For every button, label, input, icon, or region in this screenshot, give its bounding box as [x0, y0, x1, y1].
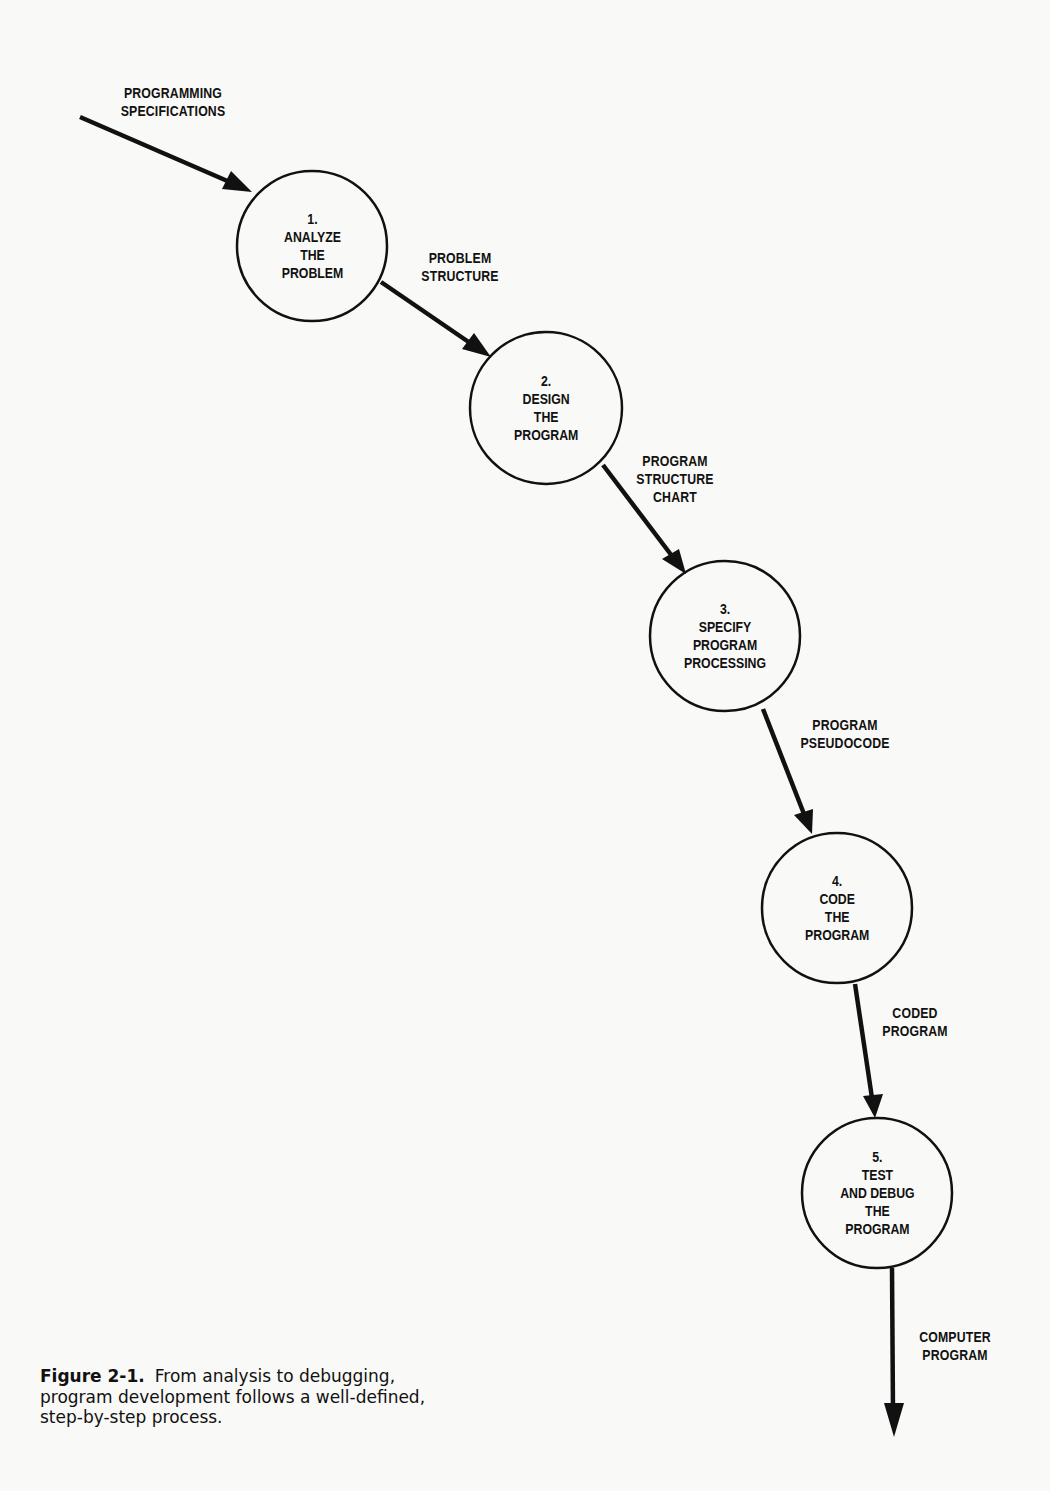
- step-line: AND DEBUG: [840, 1184, 914, 1202]
- step-line: PROGRAM: [805, 926, 869, 944]
- caption-line: step-by-step process.: [40, 1407, 223, 1427]
- flow-label-line: PROGRAM: [800, 716, 890, 734]
- step-line: CODE: [805, 890, 869, 908]
- step-line: THE: [840, 1202, 914, 1220]
- input-label-programming-specifications: PROGRAMMING SPECIFICATIONS: [112, 84, 235, 120]
- arrow-step-5-to-output: [884, 1268, 904, 1437]
- step-line: PROCESSING: [684, 654, 766, 672]
- step-number: 3.: [684, 600, 766, 618]
- flow-label-program-structure-chart: PROGRAM STRUCTURE CHART: [626, 452, 724, 506]
- step-number: 2.: [514, 372, 578, 390]
- step-5-test-and-debug-the-program: 5. TEST AND DEBUG THE PROGRAM: [802, 1118, 952, 1268]
- step-number: 4.: [805, 872, 869, 890]
- step-line: PROBLEM: [281, 264, 343, 282]
- step-line: SPECIFY: [684, 618, 766, 636]
- flow-label-line: PROGRAM: [878, 1022, 952, 1040]
- caption-line: program development follows a well-defin…: [40, 1387, 425, 1407]
- step-line: THE: [805, 908, 869, 926]
- flow-label-line: PSEUDOCODE: [800, 734, 890, 752]
- flow-label-line: CHART: [626, 488, 724, 506]
- input-label-line: PROGRAMMING: [112, 84, 235, 102]
- flow-label-program-pseudocode: PROGRAM PSEUDOCODE: [800, 716, 890, 752]
- figure-caption: Figure 2-1.From analysis to debugging, p…: [40, 1366, 560, 1428]
- flow-label-line: PROGRAM: [626, 452, 724, 470]
- flow-label-line: COMPUTER: [914, 1328, 996, 1346]
- flow-label-line: PROGRAM: [914, 1346, 996, 1364]
- step-line: THE: [281, 246, 343, 264]
- step-4-code-the-program: 4. CODE THE PROGRAM: [762, 833, 912, 983]
- flow-label-coded-program: CODED PROGRAM: [878, 1004, 952, 1040]
- step-line: PROGRAM: [840, 1220, 914, 1238]
- step-line: ANALYZE: [281, 228, 343, 246]
- figure-number: Figure 2-1.: [40, 1366, 145, 1386]
- step-2-design-the-program: 2. DESIGN THE PROGRAM: [471, 333, 621, 483]
- step-line: PROGRAM: [514, 426, 578, 444]
- step-3-specify-program-processing: 3. SPECIFY PROGRAM PROCESSING: [650, 561, 800, 711]
- step-line: DESIGN: [514, 390, 578, 408]
- flow-label-line: STRUCTURE: [626, 470, 724, 488]
- step-1-analyze-the-problem: 1. ANALYZE THE PROBLEM: [237, 171, 387, 321]
- flow-label-line: CODED: [878, 1004, 952, 1022]
- step-number: 5.: [840, 1148, 914, 1166]
- caption-line: From analysis to debugging,: [155, 1366, 395, 1386]
- arrow-input-to-step-1: [80, 117, 252, 192]
- step-line: THE: [514, 408, 578, 426]
- flow-label-problem-structure: PROBLEM STRUCTURE: [411, 249, 509, 285]
- step-line: TEST: [840, 1166, 914, 1184]
- flow-label-computer-program: COMPUTER PROGRAM: [914, 1328, 996, 1364]
- flow-label-line: PROBLEM: [411, 249, 509, 267]
- step-number: 1.: [281, 210, 343, 228]
- input-label-line: SPECIFICATIONS: [112, 102, 235, 120]
- step-line: PROGRAM: [684, 636, 766, 654]
- flow-label-line: STRUCTURE: [411, 267, 509, 285]
